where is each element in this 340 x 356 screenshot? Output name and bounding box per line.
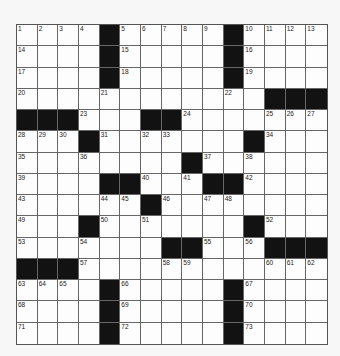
grid-cell[interactable] — [79, 174, 100, 195]
grid-cell[interactable] — [162, 89, 183, 110]
grid-cell[interactable]: 30 — [58, 131, 79, 152]
grid-cell[interactable] — [182, 89, 203, 110]
grid-cell[interactable]: 49 — [17, 216, 38, 237]
grid-cell[interactable] — [265, 301, 286, 322]
grid-cell[interactable] — [58, 68, 79, 89]
grid-cell[interactable] — [286, 195, 307, 216]
grid-cell[interactable] — [306, 195, 327, 216]
grid-cell[interactable] — [306, 174, 327, 195]
grid-cell[interactable] — [162, 68, 183, 89]
grid-cell[interactable] — [141, 323, 162, 344]
grid-cell[interactable] — [162, 46, 183, 67]
grid-cell[interactable]: 10 — [244, 25, 265, 46]
grid-cell[interactable] — [244, 195, 265, 216]
grid-cell[interactable] — [79, 89, 100, 110]
grid-cell[interactable]: 46 — [162, 195, 183, 216]
grid-cell[interactable]: 27 — [306, 110, 327, 131]
grid-cell[interactable] — [120, 89, 141, 110]
grid-cell[interactable] — [306, 323, 327, 344]
grid-cell[interactable] — [58, 174, 79, 195]
grid-cell[interactable] — [38, 216, 59, 237]
grid-cell[interactable]: 15 — [120, 46, 141, 67]
grid-cell[interactable]: 16 — [244, 46, 265, 67]
grid-cell[interactable] — [162, 174, 183, 195]
grid-cell[interactable]: 40 — [141, 174, 162, 195]
grid-cell[interactable] — [203, 323, 224, 344]
grid-cell[interactable]: 25 — [265, 110, 286, 131]
grid-cell[interactable]: 4 — [79, 25, 100, 46]
grid-cell[interactable] — [182, 68, 203, 89]
grid-cell[interactable]: 38 — [244, 153, 265, 174]
grid-cell[interactable] — [265, 174, 286, 195]
grid-cell[interactable]: 71 — [17, 323, 38, 344]
grid-cell[interactable] — [182, 280, 203, 301]
grid-cell[interactable] — [203, 259, 224, 280]
grid-cell[interactable]: 58 — [162, 259, 183, 280]
grid-cell[interactable]: 56 — [244, 238, 265, 259]
grid-cell[interactable] — [38, 301, 59, 322]
grid-cell[interactable] — [203, 301, 224, 322]
grid-cell[interactable]: 48 — [224, 195, 245, 216]
grid-cell[interactable]: 51 — [141, 216, 162, 237]
grid-cell[interactable]: 67 — [244, 280, 265, 301]
grid-cell[interactable] — [265, 46, 286, 67]
grid-cell[interactable] — [203, 68, 224, 89]
grid-cell[interactable]: 39 — [17, 174, 38, 195]
grid-cell[interactable] — [79, 323, 100, 344]
grid-cell[interactable]: 32 — [141, 131, 162, 152]
grid-cell[interactable] — [224, 131, 245, 152]
grid-cell[interactable]: 22 — [224, 89, 245, 110]
grid-cell[interactable] — [141, 68, 162, 89]
grid-cell[interactable] — [141, 46, 162, 67]
grid-cell[interactable] — [286, 46, 307, 67]
grid-cell[interactable] — [79, 46, 100, 67]
grid-cell[interactable] — [224, 259, 245, 280]
grid-cell[interactable]: 11 — [265, 25, 286, 46]
grid-cell[interactable] — [224, 110, 245, 131]
grid-cell[interactable] — [203, 46, 224, 67]
grid-cell[interactable] — [182, 323, 203, 344]
grid-cell[interactable]: 57 — [79, 259, 100, 280]
grid-cell[interactable] — [203, 110, 224, 131]
grid-cell[interactable] — [120, 238, 141, 259]
grid-cell[interactable] — [38, 238, 59, 259]
grid-cell[interactable]: 5 — [120, 25, 141, 46]
grid-cell[interactable]: 23 — [79, 110, 100, 131]
grid-cell[interactable]: 41 — [182, 174, 203, 195]
grid-cell[interactable] — [224, 238, 245, 259]
grid-cell[interactable] — [38, 46, 59, 67]
grid-cell[interactable] — [265, 153, 286, 174]
grid-cell[interactable] — [162, 216, 183, 237]
grid-cell[interactable] — [58, 153, 79, 174]
grid-cell[interactable]: 73 — [244, 323, 265, 344]
grid-cell[interactable] — [306, 301, 327, 322]
grid-cell[interactable]: 54 — [79, 238, 100, 259]
grid-cell[interactable]: 36 — [79, 153, 100, 174]
grid-cell[interactable]: 26 — [286, 110, 307, 131]
grid-cell[interactable] — [120, 259, 141, 280]
grid-cell[interactable] — [306, 153, 327, 174]
grid-cell[interactable]: 35 — [17, 153, 38, 174]
grid-cell[interactable] — [58, 195, 79, 216]
grid-cell[interactable]: 47 — [203, 195, 224, 216]
grid-cell[interactable] — [286, 131, 307, 152]
grid-cell[interactable]: 9 — [203, 25, 224, 46]
grid-cell[interactable]: 33 — [162, 131, 183, 152]
grid-cell[interactable] — [224, 216, 245, 237]
grid-cell[interactable] — [38, 89, 59, 110]
grid-cell[interactable]: 1 — [17, 25, 38, 46]
grid-cell[interactable]: 20 — [17, 89, 38, 110]
grid-cell[interactable] — [141, 153, 162, 174]
grid-cell[interactable] — [224, 153, 245, 174]
grid-cell[interactable] — [286, 174, 307, 195]
grid-cell[interactable]: 29 — [38, 131, 59, 152]
grid-cell[interactable] — [306, 131, 327, 152]
grid-cell[interactable] — [58, 216, 79, 237]
grid-cell[interactable]: 2 — [38, 25, 59, 46]
grid-cell[interactable] — [162, 323, 183, 344]
grid-cell[interactable]: 45 — [120, 195, 141, 216]
grid-cell[interactable] — [141, 238, 162, 259]
grid-cell[interactable] — [58, 89, 79, 110]
grid-cell[interactable] — [265, 195, 286, 216]
grid-cell[interactable]: 7 — [162, 25, 183, 46]
